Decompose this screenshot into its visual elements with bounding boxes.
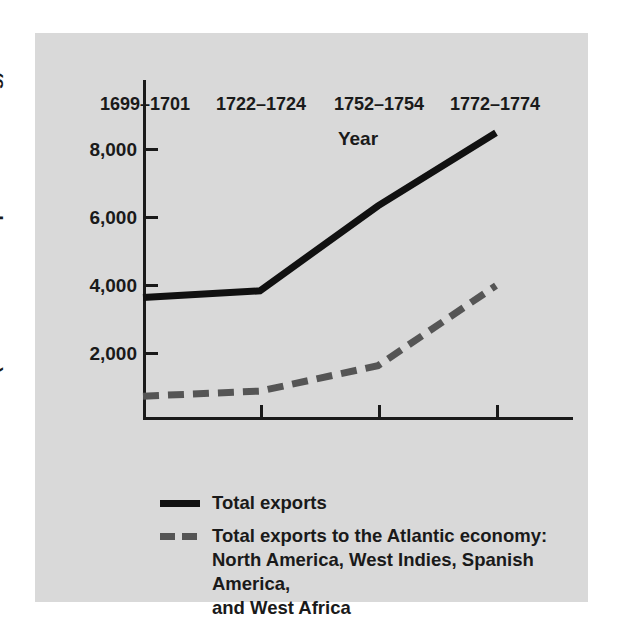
legend-item-total-exports: Total exports <box>160 491 588 515</box>
solid-line-swatch-icon <box>160 491 200 515</box>
legend-label-total-exports: Total exports <box>212 491 327 515</box>
series-line-total-exports <box>143 133 496 298</box>
chart-legend: Total exports Total exports to the Atlan… <box>160 491 588 629</box>
y-tick-label-6000: 6,000 <box>89 207 137 229</box>
y-axis-title: Value (in thousands of pounds sterling) <box>0 72 4 429</box>
chart-figure-panel: Value (in thousands of pounds sterling) … <box>35 33 588 602</box>
series-canvas <box>143 80 573 420</box>
plot-area: Value (in thousands of pounds sterling) … <box>143 80 573 420</box>
y-tick-label-2000: 2,000 <box>89 343 137 365</box>
series-line-atlantic-economy <box>143 286 496 397</box>
legend-item-atlantic-economy: Total exports to the Atlantic economy: N… <box>160 524 588 620</box>
legend-label-atlantic-economy: Total exports to the Atlantic economy: N… <box>212 524 588 620</box>
y-tick-label-8000: 8,000 <box>89 139 137 161</box>
y-tick-label-4000: 4,000 <box>89 275 137 297</box>
dashed-line-swatch-icon <box>160 524 200 548</box>
